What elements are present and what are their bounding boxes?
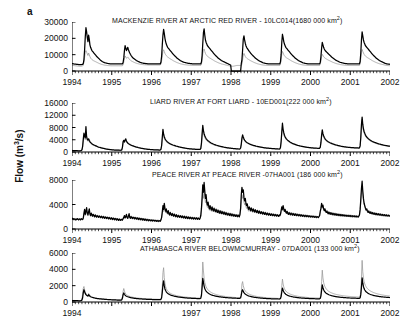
x-tick-label: 1997 — [182, 308, 201, 318]
panel-title-4: ATHABASCA RIVER BELOWMCMURRAY - 07DA001 … — [140, 243, 360, 252]
y-tick-label: 20000 — [44, 33, 68, 43]
x-tick-label: 1995 — [102, 158, 121, 168]
y-tick-label: 4000 — [49, 264, 68, 274]
river-flow-figure: a Flow (m3/s) MACKENZIE RIVER AT ARCTIC … — [0, 0, 403, 321]
axis-spine — [72, 253, 390, 302]
x-tick-label: 1998 — [222, 308, 241, 318]
x-tick-label: 1999 — [261, 158, 280, 168]
y-tick-label: 8000 — [49, 123, 68, 133]
y-tick-label: 6000 — [49, 248, 68, 258]
panel-title-3: PEACE RIVER AT PEACE RIVER -07HA001 (186… — [152, 169, 343, 178]
hydrograph-svg — [72, 103, 390, 157]
x-axis-ticks-4: 1994199719981999200020012002 — [72, 308, 390, 320]
hydrograph-svg — [72, 253, 390, 307]
y-axis-ticks-2: 0400080001200016000 — [0, 103, 68, 152]
x-tick-label: 1995 — [102, 77, 121, 87]
x-tick-label: 1998 — [222, 158, 241, 168]
panel-title-text: ATHABASCA RIVER BELOWMCMURRAY - 07DA001 … — [140, 245, 354, 252]
y-tick-label: 0 — [63, 224, 68, 234]
x-tick-label: 1996 — [142, 77, 161, 87]
x-tick-label: 1998 — [222, 77, 241, 87]
x-tick-label: 1994 — [63, 235, 82, 245]
plot-area-2 — [72, 103, 390, 152]
x-tick-label: 1999 — [261, 77, 280, 87]
x-tick-label: 1999 — [261, 308, 280, 318]
y-axis-ticks-3: 040008000 — [0, 180, 68, 229]
hydrograph-svg — [72, 180, 390, 234]
y-tick-label: 10000 — [44, 50, 68, 60]
plot-area-1 — [72, 22, 390, 71]
axis-spine — [72, 180, 390, 229]
plot-area-4 — [72, 253, 390, 302]
x-tick-label: 1996 — [142, 158, 161, 168]
y-tick-label: 16000 — [44, 98, 68, 108]
x-tick-label: 1994 — [63, 158, 82, 168]
x-tick-label: 1995 — [102, 235, 121, 245]
x-tick-label: 1994 — [63, 77, 82, 87]
series-line-observed — [72, 117, 390, 151]
y-tick-label: 12000 — [44, 110, 68, 120]
x-tick-label: 2001 — [341, 77, 360, 87]
x-tick-label: 2001 — [341, 158, 360, 168]
x-tick-label: 1994 — [63, 308, 82, 318]
y-tick-label: 8000 — [49, 175, 68, 185]
x-tick-label: 2000 — [301, 308, 320, 318]
x-tick-label: 2002 — [381, 308, 400, 318]
x-tick-label: 2000 — [301, 158, 320, 168]
y-axis-ticks-1: 0100002000030000 — [0, 22, 68, 71]
x-tick-label: 2002 — [381, 77, 400, 87]
x-tick-label: 2000 — [301, 77, 320, 87]
y-tick-label: 0 — [63, 66, 68, 76]
series-line-observed — [72, 181, 390, 221]
y-tick-label: 2000 — [49, 281, 68, 291]
x-axis-ticks-1: 199419951996199719981999200020012002 — [72, 77, 390, 89]
x-tick-label: 1997 — [182, 77, 201, 87]
y-tick-label: 4000 — [49, 200, 68, 210]
x-tick-label: 2002 — [381, 158, 400, 168]
x-tick-label: 2002 — [381, 235, 400, 245]
series-line-simulated — [72, 260, 390, 300]
panel-title-text: PEACE RIVER AT PEACE RIVER -07HA001 (186… — [152, 171, 337, 178]
series-line-observed — [72, 278, 390, 301]
axis-spine — [72, 103, 390, 152]
hydrograph-svg — [72, 22, 390, 76]
y-tick-label: 0 — [63, 147, 68, 157]
y-axis-ticks-4: 0200040006000 — [0, 253, 68, 302]
y-tick-label: 30000 — [44, 17, 68, 27]
x-tick-label: 1997 — [182, 158, 201, 168]
y-tick-label: 0 — [63, 297, 68, 307]
plot-area-3 — [72, 180, 390, 229]
x-tick-label: 2001 — [341, 308, 360, 318]
y-tick-label: 4000 — [49, 135, 68, 145]
panel-letter-a: a — [27, 6, 33, 17]
panel-title-tail: ) — [340, 171, 342, 178]
panel-title-tail: ) — [357, 245, 359, 252]
